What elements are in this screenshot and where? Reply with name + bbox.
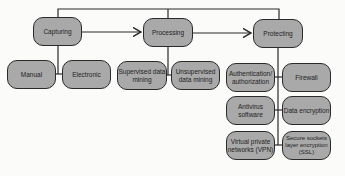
node-supervised-data-mining: Supervised data mining <box>117 61 167 90</box>
node-manual: Manual <box>7 60 56 89</box>
node-data-encryption: Data encryption <box>282 96 331 125</box>
node-firewall: Firewall <box>282 63 331 92</box>
node-processing: Processing <box>143 18 193 47</box>
node-unsupervised-data-mining: Unsupervised data mining <box>171 61 220 90</box>
node-capturing: Capturing <box>33 17 82 46</box>
node-protecting: Protecting <box>253 19 303 48</box>
node-vpn: Virtual private networks (VPN) <box>226 131 275 160</box>
node-authentication: Authentication/ authorization <box>226 63 275 92</box>
node-antivirus: Antivirus software <box>226 96 275 125</box>
node-electronic: Electronic <box>62 60 111 89</box>
node-ssl: Secure sockets layer encryption (SSL) <box>282 131 331 160</box>
